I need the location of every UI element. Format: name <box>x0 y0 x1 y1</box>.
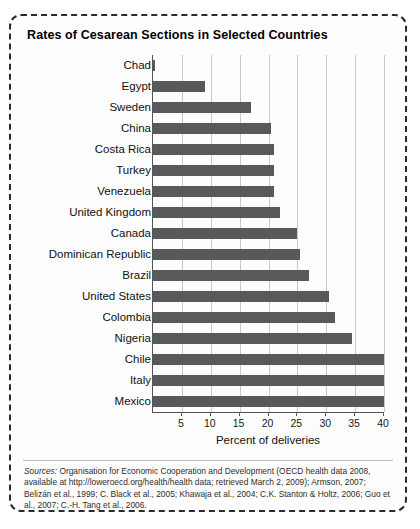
x-tick-label: 5 <box>178 417 184 429</box>
category-label: China <box>121 118 151 139</box>
category-label: Costa Rica <box>95 139 151 160</box>
x-tick <box>268 412 269 416</box>
category-label: Dominican Republic <box>49 244 151 265</box>
category-label: Canada <box>111 223 151 244</box>
x-tick <box>210 412 211 416</box>
category-label: Turkey <box>116 160 151 181</box>
sources-note: Sources: Organisation for Economic Coope… <box>24 466 393 512</box>
bar <box>153 333 352 344</box>
x-tick-label: 25 <box>291 417 303 429</box>
sources-label: Sources: <box>24 466 57 476</box>
figure-container: Rates of Cesarean Sections in Selected C… <box>9 14 407 512</box>
x-tick <box>354 412 355 416</box>
page-title: Rates of Cesarean Sections in Selected C… <box>27 28 328 42</box>
category-label: Nigeria <box>115 328 151 349</box>
bar-slot <box>153 223 384 244</box>
x-tick-label: 30 <box>319 417 331 429</box>
bar <box>153 144 274 155</box>
category-label: United States <box>82 286 151 307</box>
bar-slot <box>153 286 384 307</box>
x-tick-label: 35 <box>348 417 360 429</box>
bar <box>153 291 329 302</box>
x-tick <box>181 412 182 416</box>
bar <box>153 186 274 197</box>
category-label: Brazil <box>122 265 151 286</box>
category-label: Italy <box>130 370 151 391</box>
gridline <box>384 55 385 412</box>
x-tick <box>325 412 326 416</box>
bar-slot <box>153 265 384 286</box>
x-tick-label: 10 <box>204 417 216 429</box>
sources-divider <box>23 460 393 461</box>
bar-slot <box>153 160 384 181</box>
category-label: Venezuela <box>97 181 151 202</box>
bar-slot <box>153 202 384 223</box>
bar-slot <box>153 370 384 391</box>
bar <box>153 60 155 71</box>
bar-chart: ChadEgyptSwedenChinaCosta RicaTurkeyVene… <box>11 55 405 455</box>
bar-slot <box>153 328 384 349</box>
bar-slot <box>153 76 384 97</box>
category-label: Mexico <box>115 391 151 412</box>
bar <box>153 396 384 407</box>
sources-text: Organisation for Economic Cooperation an… <box>24 466 390 510</box>
x-tick <box>296 412 297 416</box>
x-tick <box>383 412 384 416</box>
bar-slot <box>153 55 384 76</box>
bar-slot <box>153 349 384 370</box>
bar-slot <box>153 181 384 202</box>
bar <box>153 375 384 386</box>
category-label: Egypt <box>122 76 151 97</box>
bar <box>153 165 274 176</box>
plot-area <box>152 55 384 412</box>
category-label: United Kingdom <box>69 202 151 223</box>
bar-slot <box>153 118 384 139</box>
x-tick-label: 20 <box>262 417 274 429</box>
x-tick-label: 40 <box>377 417 389 429</box>
category-label: Sweden <box>109 97 151 118</box>
x-axis-label: Percent of deliveries <box>152 434 384 446</box>
bar <box>153 123 271 134</box>
bar <box>153 207 280 218</box>
bar <box>153 228 297 239</box>
bar-slot <box>153 244 384 265</box>
category-label: Colombia <box>102 307 151 328</box>
bar <box>153 102 251 113</box>
bar <box>153 354 384 365</box>
bars-group <box>153 55 384 412</box>
category-label: Chile <box>125 349 151 370</box>
bar <box>153 312 335 323</box>
bar-slot <box>153 307 384 328</box>
x-tick <box>239 412 240 416</box>
bar <box>153 81 205 92</box>
bar-slot <box>153 391 384 412</box>
bar <box>153 249 300 260</box>
x-tick-label: 15 <box>233 417 245 429</box>
bar-slot <box>153 97 384 118</box>
bar-slot <box>153 139 384 160</box>
category-label: Chad <box>124 55 152 76</box>
bar <box>153 270 309 281</box>
